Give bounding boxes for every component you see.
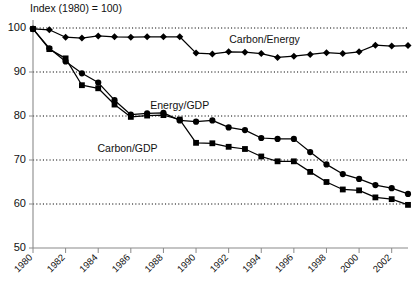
data-point-circle: [258, 135, 264, 141]
series-lines: [33, 29, 408, 205]
series-line-carbon-energy: [33, 29, 408, 58]
y-tick-label: 70: [14, 153, 26, 165]
data-point-square: [226, 144, 232, 150]
data-point-circle: [193, 119, 199, 125]
data-point-diamond: [46, 26, 53, 33]
data-point-square: [161, 112, 167, 118]
series-label-carbon-energy: Carbon/Energy: [229, 33, 300, 45]
data-point-diamond: [323, 49, 330, 56]
x-tick-label: 2000: [338, 252, 361, 275]
data-point-square: [324, 179, 330, 185]
y-tick-label: 100: [8, 21, 26, 33]
data-point-square: [128, 114, 134, 120]
data-point-square: [356, 187, 362, 193]
x-tick-label: 1996: [273, 252, 296, 275]
y-tick-label: 80: [14, 109, 26, 121]
y-axis-tick-labels: 5060708090100: [8, 21, 26, 253]
data-point-square: [372, 195, 378, 201]
data-point-diamond: [160, 33, 167, 40]
data-point-circle: [95, 79, 101, 85]
data-point-diamond: [144, 33, 151, 40]
x-tick-label: 1986: [110, 252, 133, 275]
data-point-square: [389, 196, 395, 202]
data-point-square: [95, 85, 101, 91]
data-point-square: [30, 26, 36, 32]
data-point-diamond: [225, 48, 232, 55]
index-trend-line-chart: 5060708090100 19801982198419861988199019…: [0, 0, 415, 290]
data-point-diamond: [356, 48, 363, 55]
chart-title: Index (1980) = 100): [30, 2, 122, 14]
x-tick-label: 1984: [77, 252, 100, 275]
data-point-circle: [226, 124, 232, 130]
data-point-circle: [79, 70, 85, 76]
data-point-circle: [291, 136, 297, 142]
x-tick-label: 1990: [175, 252, 198, 275]
chart-container: 5060708090100 19801982198419861988199019…: [0, 0, 415, 290]
x-tick-label: 1998: [305, 252, 328, 275]
x-tick-label: 1988: [142, 252, 165, 275]
x-axis-tick-labels: 1980198219841986198819901992199419961998…: [12, 252, 393, 275]
data-point-diamond: [307, 51, 314, 58]
series-label-carbon-gdp: Carbon/GDP: [98, 142, 158, 154]
data-point-diamond: [62, 34, 69, 41]
data-point-diamond: [274, 54, 281, 61]
data-point-circle: [389, 185, 395, 191]
data-point-square: [209, 140, 215, 146]
data-point-square: [291, 158, 297, 164]
x-tick-label: 2002: [370, 252, 393, 275]
data-point-square: [275, 158, 281, 164]
data-point-diamond: [209, 50, 216, 57]
data-point-circle: [274, 136, 280, 142]
data-point-diamond: [258, 50, 265, 57]
data-point-square: [79, 82, 85, 88]
data-point-diamond: [372, 42, 379, 49]
data-point-circle: [209, 117, 215, 123]
series-line-energy-gdp: [33, 29, 408, 194]
data-point-circle: [340, 171, 346, 177]
y-tick-label: 50: [14, 241, 26, 253]
data-point-diamond: [111, 33, 118, 40]
y-tick-label: 60: [14, 197, 26, 209]
data-point-square: [242, 146, 248, 152]
data-point-square: [405, 202, 411, 208]
data-point-square: [177, 117, 183, 123]
series-line-carbon-gdp: [33, 29, 408, 205]
data-point-square: [112, 102, 118, 108]
data-point-square: [193, 140, 199, 146]
x-tick-label: 1982: [44, 252, 67, 275]
data-point-diamond: [290, 53, 297, 60]
data-point-square: [46, 46, 52, 52]
data-point-square: [307, 169, 313, 175]
data-point-diamond: [241, 49, 248, 56]
data-point-diamond: [339, 50, 346, 57]
data-point-square: [63, 55, 69, 61]
series-annotations: Carbon/EnergyEnergy/GDPCarbon/GDP: [98, 33, 301, 154]
y-tick-label: 90: [14, 65, 26, 77]
data-point-square: [340, 187, 346, 193]
series-label-energy-gdp: Energy/GDP: [150, 99, 209, 111]
axes: [29, 20, 408, 253]
data-point-circle: [372, 182, 378, 188]
data-point-diamond: [405, 42, 412, 49]
data-point-circle: [307, 149, 313, 155]
x-tick-label: 1992: [207, 252, 230, 275]
x-tick-label: 1994: [240, 252, 263, 275]
data-point-diamond: [127, 34, 134, 41]
data-point-square: [258, 154, 264, 160]
data-point-diamond: [388, 43, 395, 50]
data-point-circle: [356, 176, 362, 182]
data-point-square: [144, 113, 150, 119]
data-point-circle: [323, 161, 329, 167]
grid-lines: [33, 28, 408, 204]
data-point-circle: [242, 127, 248, 133]
data-point-circle: [405, 191, 411, 197]
data-point-diamond: [95, 32, 102, 39]
data-point-diamond: [78, 35, 85, 42]
x-tick-label: 1980: [12, 252, 35, 275]
